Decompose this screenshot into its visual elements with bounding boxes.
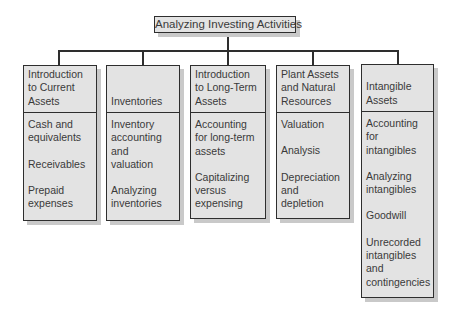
- branch-line-1: [58, 50, 60, 66]
- column-items: Accounting for long-term assets Capitali…: [191, 113, 265, 224]
- column-heading-box: Introduction to Current Assets: [24, 66, 96, 113]
- column-box-inventories: Inventories Inventory accounting and val…: [106, 65, 180, 221]
- branch-line-4: [312, 50, 314, 66]
- column-box-long-term-assets: Introduction to Long-Term Assets Account…: [190, 65, 266, 219]
- list-item: Accounting for long-term assets: [195, 118, 261, 158]
- list-item: Analyzing inventories: [111, 184, 175, 211]
- column-heading-box: Plant Assets and Natural Resources: [277, 66, 349, 113]
- diagram-title-box: Analyzing Investing Activities: [154, 16, 296, 33]
- column-box-current-assets: Introduction to Current Assets Cash and …: [23, 65, 97, 221]
- branch-line-2: [142, 50, 144, 66]
- list-item: Unrecorded intangibles and contingencies: [366, 236, 429, 289]
- column-heading: Plant Assets and Natural Resources: [281, 68, 339, 108]
- list-item: Depreciation and depletion: [281, 171, 345, 211]
- list-item: Receivables: [28, 158, 92, 171]
- list-item: Accounting for intangibles: [366, 117, 429, 157]
- list-item: Goodwill: [366, 209, 429, 222]
- column-items: Accounting for intangibles Analyzing int…: [362, 112, 433, 302]
- column-heading: Introduction to Long-Term Assets: [195, 68, 257, 108]
- list-item: Inventory accounting and valuation: [111, 118, 175, 171]
- column-heading: Inventories: [111, 95, 162, 108]
- column-items: Valuation Analysis Depreciation and depl…: [277, 113, 349, 223]
- column-heading-box: Intangible Assets: [362, 65, 433, 112]
- list-item: Cash and equivalents: [28, 118, 92, 145]
- list-item: Valuation: [281, 118, 345, 131]
- list-item: Capitalizing versus expensing: [195, 171, 261, 211]
- diagram-title: Analyzing Investing Activities: [155, 18, 302, 30]
- list-item: Prepaid expenses: [28, 184, 92, 211]
- branch-line-3: [227, 50, 229, 66]
- list-item: Analyzing intangibles: [366, 170, 429, 197]
- list-item: Analysis: [281, 144, 345, 157]
- column-heading: Intangible Assets: [366, 80, 412, 107]
- column-heading-box: Introduction to Long-Term Assets: [191, 66, 265, 113]
- column-items: Inventory accounting and valuation Analy…: [107, 113, 179, 224]
- column-box-intangible-assets: Intangible Assets Accounting for intangi…: [361, 64, 434, 298]
- branch-line-5: [397, 50, 399, 65]
- column-heading: Introduction to Current Assets: [28, 68, 83, 108]
- column-items: Cash and equivalents Receivables Prepaid…: [24, 113, 96, 223]
- column-box-plant-assets: Plant Assets and Natural Resources Valua…: [276, 65, 350, 219]
- title-stem-line: [227, 33, 229, 51]
- column-heading-box: Inventories: [107, 66, 179, 113]
